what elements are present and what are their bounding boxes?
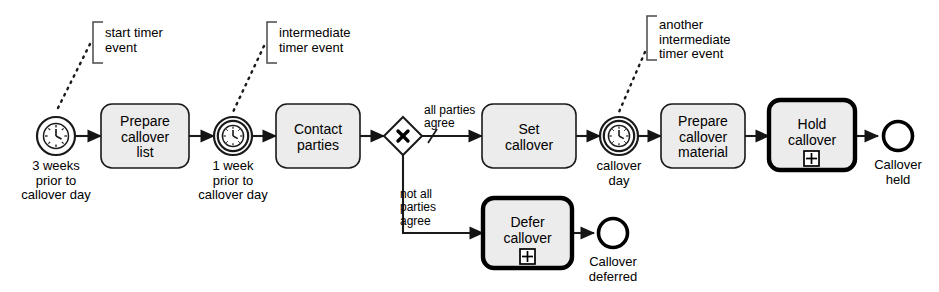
intermediate-timer-event-1-week[interactable] [214,117,252,155]
clock-icon [222,125,243,146]
clock-icon [44,124,69,149]
subprocess-defer-callover-label: Defer callover [483,215,572,246]
intermediate-timer-event-callover-day-label: callover day [575,159,663,188]
end-event-callover-held[interactable] [884,122,913,151]
end-event-callover-held-label: Callover held [856,158,939,187]
exclusive-gateway[interactable] [384,117,422,155]
end-event-callover-deferred-label: Callover deferred [571,255,655,284]
intermediate-timer-event-callover-day[interactable] [600,117,638,155]
annotation-start-timer-event-text: start timer event [105,26,201,55]
annotation-intermediate-timer-event-text: intermediate timer event [279,26,389,55]
intermediate-timer-event-1-week-label: 1 week prior to callover day [171,159,295,203]
annotation-intermediate-timer-connector [233,22,277,112]
sequence-flow-all-parties-agree [422,129,482,143]
clock-icon [608,125,629,146]
flow-label-not-all-parties-agree: not all parties agree [400,188,462,228]
bpmn-diagram-canvas: start timer event intermediate timer eve… [0,0,939,292]
annotation-another-intermediate-timer-event-text: another intermediate timer event [659,18,771,62]
flow-label-all-parties-agree: all parties agree [424,104,504,131]
start-timer-event[interactable] [37,117,75,155]
annotation-start-timer-connector [56,22,103,112]
task-prepare-callover-list-label: Prepare callover list [101,114,189,161]
subprocess-hold-callover-label: Hold callover [769,117,855,148]
start-timer-event-label: 3 weeks prior to callover day [0,159,118,203]
task-prepare-callover-material-label: Prepare callover material [661,114,745,161]
annotation-another-intermediate-timer-connector [619,16,657,112]
end-event-callover-deferred[interactable] [599,219,628,248]
task-contact-parties-label: Contact parties [276,122,360,153]
